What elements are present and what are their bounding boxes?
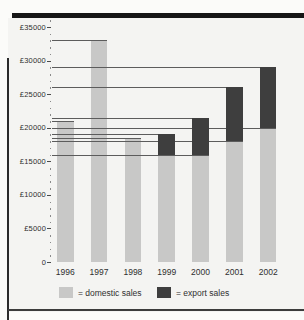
y-axis-tick-label: £10000 <box>8 190 46 199</box>
y-axis-major-tick <box>47 94 51 95</box>
y-axis-major-tick <box>47 61 51 62</box>
reference-line-1996 <box>52 121 74 122</box>
bar-2001-domestic <box>226 141 243 262</box>
y-axis-minor-tick <box>50 121 52 123</box>
y-axis-minor-tick <box>50 249 52 251</box>
reference-line-2001 <box>52 141 243 142</box>
y-axis-tick-label: £30000 <box>8 56 46 65</box>
chart-plot-area: £35000£30000£25000£20000£15000£10000£500… <box>0 0 304 320</box>
y-axis-major-tick <box>47 228 51 229</box>
legend-label-domestic: = domestic sales <box>78 288 142 298</box>
legend-swatch-export <box>157 287 171 298</box>
x-axis-year-label-1997: 1997 <box>83 267 116 277</box>
bar-2001-export <box>226 87 243 141</box>
y-axis-minor-tick <box>50 255 52 257</box>
y-axis-major-tick <box>47 262 51 263</box>
y-axis-minor-tick <box>50 20 52 22</box>
legend: = domestic sales = export sales <box>0 286 304 302</box>
y-axis-major-tick <box>47 161 51 162</box>
reference-line-2002 <box>52 67 276 68</box>
bar-1996-domestic <box>57 121 74 262</box>
y-axis-tick-label: 0 <box>8 258 46 267</box>
y-axis-tick-label: £15000 <box>8 157 46 166</box>
reference-line-2000 <box>52 118 209 119</box>
x-axis-year-label-1999: 1999 <box>150 267 183 277</box>
y-axis-minor-tick <box>50 242 52 244</box>
y-axis-tick-label: £5000 <box>8 224 46 233</box>
bar-2000-export <box>192 118 209 155</box>
x-axis-year-label-1996: 1996 <box>49 267 82 277</box>
y-axis-minor-tick <box>50 188 52 190</box>
bar-2002-domestic <box>260 128 277 262</box>
bar-1997-domestic <box>91 40 108 262</box>
scanned-bar-chart-figure: £35000£30000£25000£20000£15000£10000£500… <box>0 0 304 320</box>
x-axis-year-label-2000: 2000 <box>184 267 217 277</box>
y-axis-tick-label: £25000 <box>8 90 46 99</box>
reference-line-2000 <box>52 155 209 156</box>
y-axis-minor-tick <box>50 215 52 217</box>
y-axis-tick-label: £20000 <box>8 123 46 132</box>
y-axis-minor-tick <box>50 101 52 103</box>
y-axis-minor-tick <box>50 222 52 224</box>
y-axis-minor-tick <box>50 141 52 143</box>
bar-1999-export <box>158 134 175 154</box>
y-axis-minor-tick <box>50 47 52 49</box>
y-axis-minor-tick <box>50 40 52 42</box>
y-axis-minor-tick <box>50 175 52 177</box>
bar-1999-domestic <box>158 155 175 262</box>
y-axis-minor-tick <box>50 114 52 116</box>
reference-line-1997 <box>52 40 107 41</box>
y-axis-minor-tick <box>50 34 52 36</box>
y-axis-minor-tick <box>50 181 52 183</box>
x-axis-year-label-2002: 2002 <box>252 267 285 277</box>
y-axis-tick-label: £35000 <box>8 23 46 32</box>
y-axis-minor-tick <box>50 81 52 83</box>
y-axis-minor-tick <box>50 168 52 170</box>
y-axis-major-tick <box>47 128 51 129</box>
reference-line-2001 <box>52 87 243 88</box>
reference-line-1998 <box>52 138 141 139</box>
legend-label-export: = export sales <box>176 288 229 298</box>
y-axis-minor-tick <box>50 108 52 110</box>
bar-2002-export <box>260 67 277 127</box>
y-axis-minor-tick <box>50 87 52 89</box>
y-axis-minor-tick <box>50 74 52 76</box>
y-axis-major-tick <box>47 195 51 196</box>
legend-swatch-domestic <box>59 287 73 298</box>
y-axis-minor-tick <box>50 235 52 237</box>
reference-line-2002 <box>52 128 276 129</box>
y-axis-minor-tick <box>50 134 52 136</box>
y-axis-minor-tick <box>50 54 52 56</box>
y-axis-minor-tick <box>50 155 52 157</box>
y-axis-minor-tick <box>50 67 52 69</box>
y-axis-minor-tick <box>50 208 52 210</box>
reference-line-1999 <box>52 134 175 135</box>
bar-2000-domestic <box>192 155 209 262</box>
bar-1998-domestic <box>125 138 142 262</box>
x-axis-year-label-2001: 2001 <box>218 267 251 277</box>
x-axis-year-label-1998: 1998 <box>116 267 149 277</box>
y-axis-major-tick <box>47 27 51 28</box>
y-axis-minor-tick <box>50 148 52 150</box>
y-axis-minor-tick <box>50 202 52 204</box>
